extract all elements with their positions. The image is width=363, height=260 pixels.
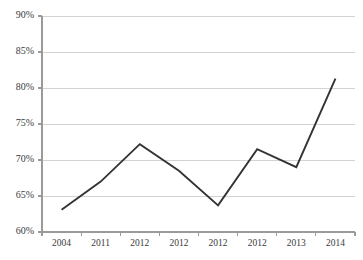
y-axis-tick-label: 85% bbox=[16, 45, 34, 56]
x-axis-tick-label: 2012 bbox=[248, 238, 267, 248]
x-axis-tick-label: 2012 bbox=[209, 238, 228, 248]
x-axis-tick-label: 2014 bbox=[326, 238, 345, 248]
chart-canvas: 60%65%70%75%80%85%90%2004201120122012201… bbox=[0, 0, 363, 260]
x-axis-tick-label: 2012 bbox=[169, 238, 188, 248]
x-axis-tick-label: 2011 bbox=[91, 238, 110, 248]
x-axis-tick-label: 2012 bbox=[130, 238, 149, 248]
y-axis-tick-label: 60% bbox=[16, 225, 34, 236]
line-chart: 60%65%70%75%80%85%90%2004201120122012201… bbox=[0, 0, 363, 260]
y-axis-tick-label: 65% bbox=[16, 189, 34, 200]
series-line-0 bbox=[62, 79, 336, 210]
y-axis-tick-label: 90% bbox=[16, 9, 34, 20]
y-axis-tick-label: 75% bbox=[16, 117, 34, 128]
x-axis-tick-label: 2004 bbox=[52, 238, 71, 248]
y-axis-tick-label: 80% bbox=[16, 81, 34, 92]
y-axis-tick-label: 70% bbox=[16, 153, 34, 164]
x-axis-tick-label: 2013 bbox=[287, 238, 306, 248]
